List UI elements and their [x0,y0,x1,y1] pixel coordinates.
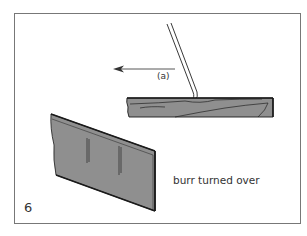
burr-label: burr turned over [173,174,260,186]
direction-label: (a) [157,71,170,81]
illustration [0,0,307,236]
scraper [51,114,155,211]
burnisher [167,23,197,99]
plank [127,98,273,117]
figure-number: 6 [24,200,32,215]
